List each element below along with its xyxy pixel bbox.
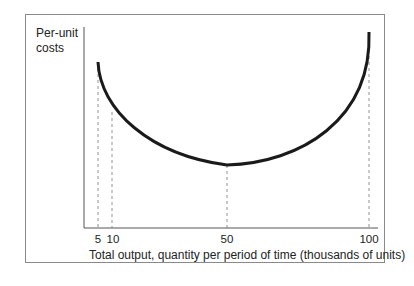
x-tick-100: 100 — [359, 233, 378, 245]
cost-curve — [98, 32, 369, 165]
x-tick-5: 5 — [95, 233, 101, 245]
y-axis-label: Per-unit costs — [36, 26, 86, 56]
x-tick-50: 50 — [221, 233, 234, 245]
x-tick-10: 10 — [107, 233, 120, 245]
x-axis-label: Total output, quantity per period of tim… — [89, 248, 405, 262]
